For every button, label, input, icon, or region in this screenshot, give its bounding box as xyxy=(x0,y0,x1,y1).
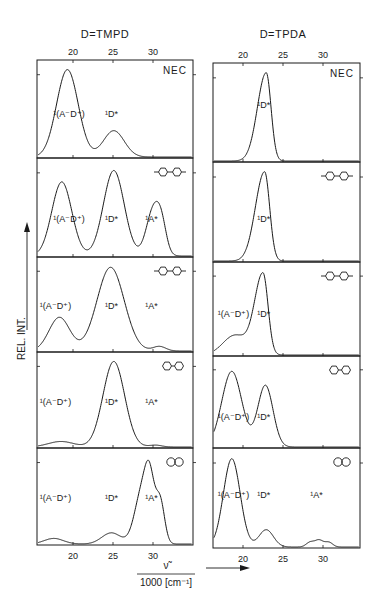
spectrum-curve xyxy=(214,73,359,161)
x-axis-label-group: ν̃ 1000 [cm⁻¹] xyxy=(137,560,250,588)
band-label: ¹A* xyxy=(145,493,158,503)
top-tick-label: 25 xyxy=(278,50,288,60)
x-axis-arrow-head-icon xyxy=(240,565,250,571)
bottom-tick-label: 20 xyxy=(68,551,78,561)
band-label: ¹(A⁻D⁺) xyxy=(40,397,72,407)
bottom-tick-label: 20 xyxy=(238,554,248,564)
band-label: ¹(A⁻D⁺) xyxy=(40,301,72,311)
top-tick-label: 30 xyxy=(318,50,328,60)
band-label: ¹D* xyxy=(105,109,118,119)
y-axis-arrow-head-icon xyxy=(24,222,30,232)
panel-frame xyxy=(213,162,360,262)
naphthalene-icon xyxy=(167,458,183,466)
bottom-tick-label: 30 xyxy=(318,554,328,564)
bottom-tick-label: 30 xyxy=(148,551,158,561)
spectrum-curve xyxy=(38,171,192,257)
spectrum-curve xyxy=(214,371,359,447)
band-label: ¹A* xyxy=(310,490,323,500)
column-title-tmpd: D=TMPD xyxy=(81,28,130,40)
acceptor-label-nec: NEC xyxy=(163,65,187,76)
spectrum-panel-naphthalene: ¹(A⁻D⁺)¹D*¹A* xyxy=(37,448,196,545)
biphenyl-small-icon xyxy=(330,366,351,374)
band-label: ¹A* xyxy=(145,301,158,311)
spectrum-panel-biphenyl: ¹(A⁻D⁺)¹D* xyxy=(213,356,363,448)
spectra-figure: D=TMPD 202025253030¹(A⁻D⁺)¹D*NEC¹(A⁻D⁺)¹… xyxy=(0,0,387,611)
top-tick-label: 20 xyxy=(238,50,248,60)
band-label: ¹D* xyxy=(105,397,118,407)
band-label: ¹(A⁻D⁺) xyxy=(53,214,85,224)
top-tick-label: 25 xyxy=(108,47,118,57)
panel-frame xyxy=(37,158,193,257)
biphenyl-icon xyxy=(321,272,353,280)
band-label: ¹(A⁻D⁺) xyxy=(218,309,250,319)
band-label: ¹(A⁻D⁺) xyxy=(218,490,250,500)
x-axis-symbol: ν̃ xyxy=(164,560,173,571)
biphenyl-icon xyxy=(154,168,186,176)
spectrum-curve xyxy=(214,172,359,261)
biphenyl-icon xyxy=(154,267,186,275)
spectrum-panel-naphthalene: ¹(A⁻D⁺)¹D*¹A* xyxy=(213,448,363,548)
top-tick-label: 30 xyxy=(148,47,158,57)
top-tick-label: 20 xyxy=(68,47,78,57)
spectrum-panel-biphenyl: ¹(A⁻D⁺)¹D*¹A* xyxy=(37,352,196,448)
band-label: ¹(A⁻D⁺) xyxy=(53,109,85,119)
column-tmpd: D=TMPD 202025253030¹(A⁻D⁺)¹D*NEC¹(A⁻D⁺)¹… xyxy=(37,28,196,561)
column-tpda: D=TPDA 202025253030¹D*NEC¹D*¹(A⁻D⁺)¹D*¹(… xyxy=(213,28,363,564)
spectrum-panel-biphenyl: ¹(A⁻D⁺)¹D*¹A* xyxy=(37,158,196,257)
spectrum-panel-biphenyl: ¹(A⁻D⁺)¹D*¹A* xyxy=(37,257,196,352)
band-label: ¹A* xyxy=(145,397,158,407)
band-label: ¹D* xyxy=(257,214,270,224)
band-label: ¹D* xyxy=(105,301,118,311)
biphenyl-small-icon xyxy=(163,362,184,370)
x-axis-unit: 1000 [cm⁻¹] xyxy=(140,577,192,588)
biphenyl-icon xyxy=(321,172,353,180)
band-label: ¹A* xyxy=(145,214,158,224)
spectrum-panel-NEC: ¹(A⁻D⁺)¹D*NEC xyxy=(37,60,196,158)
naphthalene-icon xyxy=(334,458,350,466)
spectrum-curve xyxy=(214,459,359,547)
band-label: ¹(A⁻D⁺) xyxy=(40,493,72,503)
y-axis-label-group: REL. INT. xyxy=(16,222,30,360)
column-title-tpda: D=TPDA xyxy=(260,28,307,40)
spectrum-panel-biphenyl: ¹D* xyxy=(213,162,363,262)
band-label: ¹(A⁻D⁺) xyxy=(218,412,250,422)
y-axis-label: REL. INT. xyxy=(16,317,27,360)
band-label: ¹D* xyxy=(105,214,118,224)
band-label: ¹D* xyxy=(105,493,118,503)
bottom-tick-label: 25 xyxy=(108,551,118,561)
band-label: ¹D* xyxy=(257,100,270,110)
band-label: ¹D* xyxy=(257,309,270,319)
spectrum-panel-biphenyl: ¹(A⁻D⁺)¹D* xyxy=(213,262,363,356)
acceptor-label-nec: NEC xyxy=(330,68,354,79)
spectrum-panel-NEC: ¹D*NEC xyxy=(213,63,363,162)
band-label: ¹D* xyxy=(257,490,270,500)
band-label: ¹D* xyxy=(257,412,270,422)
bottom-tick-label: 25 xyxy=(278,554,288,564)
